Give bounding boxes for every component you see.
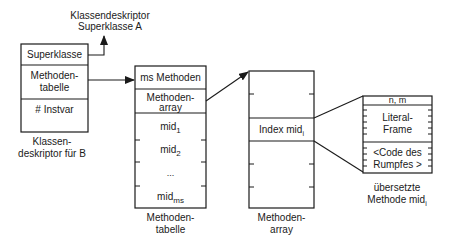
method-array-pointer-arrow [206, 72, 248, 101]
class-descriptor-caption-line2: deskriptor für B [18, 148, 86, 159]
method-array-box: Index midi [249, 71, 314, 208]
header-nm-field: n, m [389, 95, 407, 105]
class-descriptor-box: Superklasse Methoden- tabelle # Instvar [21, 44, 88, 132]
method-table-box: ms Methoden Methoden- array mid1 mid2 ..… [135, 66, 206, 208]
method-array-caption-line1: Methoden- [258, 212, 306, 223]
code-body-line1: <Code des [373, 147, 422, 158]
class-structure-diagram: Klassendeskriptor Superklasse A Superkla… [0, 0, 449, 248]
literal-frame-line1: Literal- [382, 112, 413, 123]
superklasse-field: Superklasse [27, 49, 82, 60]
class-descriptor-caption-line1: Klassen- [33, 136, 72, 147]
expansion-line-bottom [314, 141, 363, 172]
superclass-descriptor-label-line1: Klassendeskriptor [70, 10, 150, 21]
method-table-caption-line2: tabelle [156, 224, 186, 235]
ellipsis-entry: ... [167, 168, 175, 178]
method-array-caption-line2: array [270, 224, 293, 235]
methodentabelle-field-line2: tabelle [40, 82, 70, 93]
method-table-caption-line1: Methoden- [147, 212, 195, 223]
superclass-descriptor-label-line2: Superklasse A [78, 21, 142, 32]
code-body-line2: Rumpfes > [373, 159, 422, 170]
method-count-field: ms Methoden [140, 72, 201, 83]
literal-frame-line2: Frame [383, 124, 412, 135]
instvar-field: # Instvar [35, 104, 74, 115]
superclass-pointer-arrow [88, 36, 104, 55]
methodentabelle-field-line1: Methoden- [31, 70, 79, 81]
expansion-line-top [314, 96, 363, 118]
compiled-method-caption-line2: Methode midi [367, 194, 427, 207]
compiled-method-box: n, m Literal- Frame <Code des Rumpfes > [363, 95, 432, 173]
methodenarray-field-line2: array [159, 102, 182, 113]
compiled-method-caption-line1: übersetzte [374, 182, 421, 193]
